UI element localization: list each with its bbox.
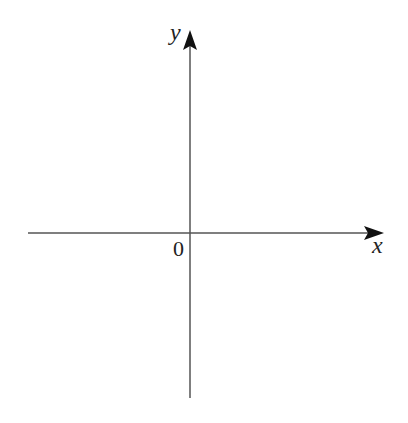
x-axis-label: x	[371, 232, 383, 258]
origin-label: 0	[173, 236, 184, 261]
coordinate-axes-diagram: y x 0	[0, 0, 408, 423]
y-axis-label: y	[168, 19, 181, 45]
